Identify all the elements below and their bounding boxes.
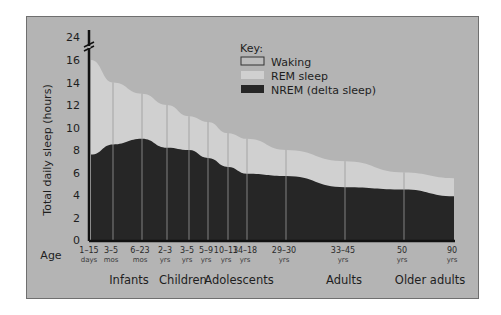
x-axis-label: Age [40,249,62,262]
y-tick-label: 24 [66,31,80,44]
x-tick-label: 90 [447,246,457,255]
x-tick-unit: yrs [447,256,458,264]
x-tick-unit: yrs [338,256,349,264]
x-tick-label: 5–9 [199,246,213,255]
age-group-labels: InfantsChildrenAdolescentsAdultsOlder ad… [109,273,465,287]
x-tick-unit: days [81,256,98,264]
legend-swatch-rem [241,71,264,79]
x-tick-label: 50 [397,246,407,255]
y-tick-label: 4 [73,189,80,202]
y-tick-label: 14 [66,77,80,90]
x-tick-label: 3–5 [104,246,118,255]
x-tick-unit: mos [104,256,119,264]
y-tick-label: 2 [73,212,80,225]
x-tick-label: 14–18 [233,246,257,255]
x-tick-label: 29–30 [272,246,296,255]
y-tick-labels: 024681012141624 [66,31,80,247]
age-group-label: Adults [326,273,362,287]
legend-title: Key: [240,42,263,55]
legend-label-rem: REM sleep [271,70,328,83]
x-tick-unit: yrs [397,256,408,264]
legend-label-nrem: NREM (delta sleep) [271,84,376,97]
sleep-chart: 024681012141624 1–15days3–5mos6–23mos2–3… [0,0,501,315]
age-group-label: Infants [109,273,149,287]
legend-label-waking: Waking [271,56,311,69]
age-group-label: Children [159,273,207,287]
x-tick-label: 3–5 [180,246,194,255]
x-tick-unit: yrs [182,256,193,264]
x-tick-unit: yrs [201,256,212,264]
x-tick-label: 1–15 [79,246,98,255]
y-tick-label: 8 [73,144,80,157]
legend-swatch-waking [241,57,264,65]
x-tick-label: 6–23 [130,246,149,255]
x-tick-labels: 1–15days3–5mos6–23mos2–3yrs3–5yrs5–9yrs1… [79,246,457,264]
x-tick-unit: mos [133,256,148,264]
age-group-label: Older adults [395,273,465,287]
x-tick-label: 2–3 [158,246,172,255]
y-tick-label: 6 [73,167,80,180]
y-tick-label: 10 [66,122,80,135]
y-tick-label: 16 [66,54,80,67]
age-group-label: Adolescents [204,273,273,287]
x-tick-unit: yrs [160,256,171,264]
y-tick-label: 12 [66,99,80,112]
x-tick-unit: yrs [279,256,290,264]
legend-swatch-nrem [241,85,264,93]
x-tick-unit: yrs [240,256,251,264]
legend: Key: Waking REM sleep NREM (delta sleep) [240,42,376,97]
x-tick-unit: yrs [221,256,232,264]
y-axis-label: Total daily sleep (hours) [41,84,54,216]
x-tick-label: 33–45 [331,246,355,255]
